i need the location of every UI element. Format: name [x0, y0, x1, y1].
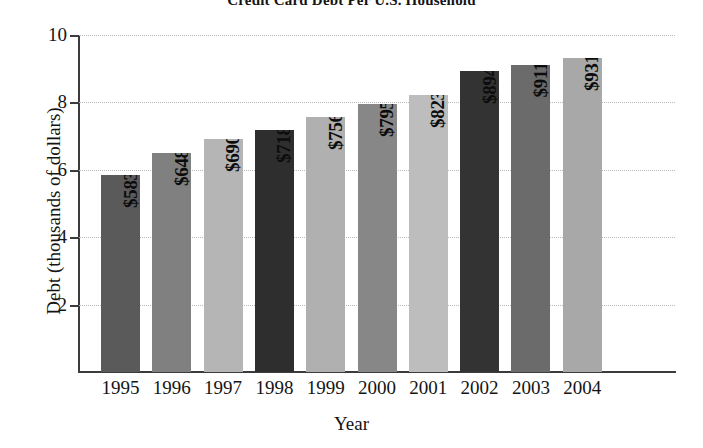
bar-value-label: $9110 [531, 65, 550, 97]
y-tick-label: 8 [27, 92, 67, 111]
y-tick-label: 2 [27, 295, 67, 314]
bar[interactable]: $9312 [563, 58, 602, 372]
bar[interactable]: $7564 [306, 117, 345, 372]
bar-value-label: $7564 [326, 117, 345, 150]
bar[interactable]: $7950 [358, 104, 397, 372]
y-tick-label: 6 [27, 160, 67, 179]
bar-value-label: $8940 [480, 71, 499, 104]
bar[interactable]: $8940 [460, 71, 499, 372]
y-tick-mark [70, 170, 79, 172]
bar[interactable]: $8231 [409, 95, 448, 372]
bar[interactable]: $6487 [152, 153, 191, 372]
bar[interactable]: $5832 [101, 175, 140, 372]
plot-area: $5832$6487$6900$7188$7564$7950$8231$8940… [79, 35, 675, 372]
y-tick-mark [70, 237, 79, 239]
y-tick-label: 4 [27, 227, 67, 246]
y-tick-mark [70, 102, 79, 104]
bar-value-label: $7188 [274, 130, 293, 163]
bar-value-label: $9312 [582, 58, 601, 91]
gridline [79, 35, 675, 36]
bar-chart: Credit Card Debt Per U.S. Household Debt… [0, 0, 703, 448]
x-axis-title: Year [0, 413, 703, 435]
bar-value-label: $6487 [172, 153, 191, 186]
bar[interactable]: $7188 [255, 130, 294, 372]
chart-title: Credit Card Debt Per U.S. Household [0, 0, 703, 9]
y-tick-label: 10 [27, 25, 67, 44]
y-tick-mark [70, 305, 79, 307]
bar-value-label: $5832 [121, 175, 140, 208]
y-tick-mark [70, 35, 79, 37]
bar-value-label: $8231 [428, 95, 447, 128]
bar[interactable]: $9110 [511, 65, 550, 372]
bar-value-label: $6900 [223, 139, 242, 172]
x-tick-label: 2004 [552, 378, 612, 397]
bar[interactable]: $6900 [204, 139, 243, 372]
bar-value-label: $7950 [377, 104, 396, 137]
